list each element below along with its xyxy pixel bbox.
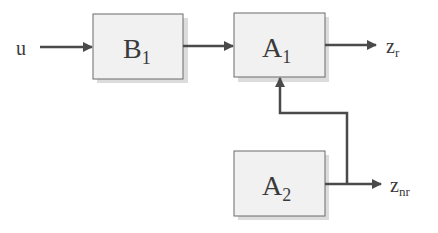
output-label-znr: znr [390,174,410,199]
block-b1-sub: 1 [142,48,151,68]
block-a2-sub: 2 [282,185,291,205]
block-b1: B1 [93,14,188,83]
block-a1-sub: 1 [282,47,291,67]
output-label-zr: zr [386,35,400,60]
input-label-u: u [16,37,26,59]
block-a2-main: A [262,170,283,201]
block-b1-main: B [123,33,142,64]
block-diagram: u B1 A1 zr A2 znr [0,0,438,233]
block-a2: A2 [234,151,329,220]
block-a1: A1 [234,13,329,82]
block-a1-main: A [262,32,283,63]
